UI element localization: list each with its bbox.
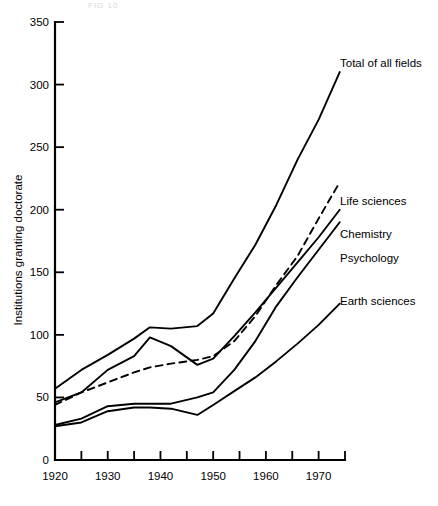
y-tick-label: 250 <box>30 141 49 153</box>
chart-figure: FIG 10 050100150200250300350 19201930194… <box>0 0 438 506</box>
y-tick-label: 200 <box>30 204 49 216</box>
series-path-life-sciences <box>55 182 340 405</box>
x-axis-ticks: 192019301940195019601970 <box>42 451 345 482</box>
series-label-psychology: Psychology <box>340 252 399 264</box>
x-tick-label: 1920 <box>42 470 68 482</box>
y-tick-label: 350 <box>30 16 49 28</box>
y-tick-label: 50 <box>36 391 49 403</box>
series-label-life-sciences: Life sciences <box>340 195 407 207</box>
series-label-chemistry: Chemistry <box>340 228 392 240</box>
x-tick-label: 1950 <box>200 470 226 482</box>
data-series-group <box>55 72 340 426</box>
x-tick-label: 1930 <box>95 470 121 482</box>
x-tick-label: 1940 <box>148 470 174 482</box>
y-axis-ticks: 050100150200250300350 <box>30 16 64 466</box>
x-tick-label: 1970 <box>306 470 332 482</box>
y-axis-title: Institutions granting doctorate <box>12 175 24 326</box>
faint-header-text: FIG 10 <box>88 1 118 10</box>
y-tick-label: 300 <box>30 79 49 91</box>
series-label-earth-sciences: Earth sciences <box>340 295 416 307</box>
series-path-total-of-all-fields <box>55 72 340 389</box>
y-tick-label: 100 <box>30 329 49 341</box>
series-label-total-of-all-fields: Total of all fields <box>340 57 422 69</box>
y-tick-label: 150 <box>30 266 49 278</box>
series-path-chemistry <box>55 210 340 403</box>
series-path-psychology <box>55 222 340 425</box>
y-tick-label: 0 <box>43 454 49 466</box>
line-chart-canvas: 050100150200250300350 192019301940195019… <box>0 0 438 506</box>
x-tick-label: 1960 <box>253 470 279 482</box>
